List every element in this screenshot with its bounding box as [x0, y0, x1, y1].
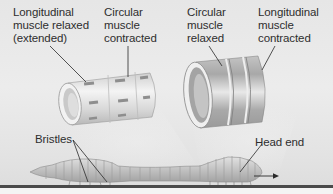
label-head-end: Head end	[255, 136, 304, 149]
bottom-margin	[0, 188, 333, 194]
label-longitudinal-contracted: Longitudinal muscle contracted	[258, 6, 319, 45]
earthworm-locomotion-diagram: Longitudinal muscle relaxed (extended) C…	[0, 0, 333, 194]
label-circular-contracted: Circular muscle contracted	[104, 6, 157, 45]
label-circular-relaxed: Circular muscle relaxed	[187, 6, 226, 45]
elongated-segment-cylinder	[56, 72, 155, 126]
label-longitudinal-relaxed: Longitudinal muscle relaxed (extended)	[13, 6, 89, 45]
label-bristles: Bristles	[35, 133, 72, 146]
shortened-segment-cylinder	[181, 56, 266, 129]
